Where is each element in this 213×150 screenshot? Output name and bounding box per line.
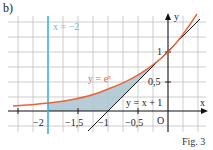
line-label: y = x + 1 — [126, 97, 162, 108]
x-tick-minus-1: −1 — [98, 117, 109, 128]
x-axis-label: x — [200, 97, 205, 108]
figure-canvas: b) x = −2 y = eˣ y = x + 1 y x O 1 0,5 −… — [0, 0, 213, 150]
x-tick-minus-1-5: −1,5 — [65, 117, 83, 128]
y-axis — [165, 13, 171, 132]
panel-label: b) — [3, 1, 13, 15]
exp-curve-label: y = eˣ — [88, 73, 111, 84]
origin-label: O — [157, 115, 164, 126]
x-tick-minus-2: −2 — [33, 117, 44, 128]
y-axis-label: y — [174, 11, 179, 22]
figure-caption: Fig. 3 — [182, 136, 205, 147]
y-tick-1: 1 — [157, 46, 162, 57]
x-tick-minus-0-5: −0,5 — [125, 117, 143, 128]
y-tick-0-5: 0,5 — [148, 76, 161, 87]
vertical-line-label: x = −2 — [53, 21, 79, 32]
